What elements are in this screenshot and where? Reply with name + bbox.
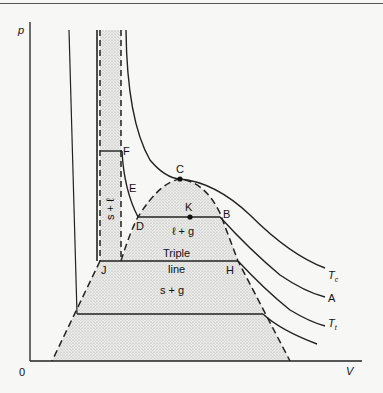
origin-label: 0 <box>19 366 25 378</box>
p-axis-label: p <box>17 24 24 36</box>
label-liquid-gas: ℓ + g <box>172 225 194 237</box>
label-tt: Tt <box>328 317 338 331</box>
label-solid-gas: s + g <box>160 284 184 296</box>
solid-isotherm-line <box>69 30 77 314</box>
v-axis-label: V <box>346 365 355 377</box>
label-j: J <box>101 264 107 276</box>
label-line: line <box>168 263 185 275</box>
phase-diagram: p 0 V C F E D K B J H ℓ + g Triple line … <box>0 0 383 393</box>
label-e: E <box>129 182 136 194</box>
solid-gas-region <box>52 261 290 361</box>
label-solid-liquid: s + ℓ <box>104 198 116 220</box>
label-b: B <box>223 208 230 220</box>
label-k: K <box>185 201 193 213</box>
label-tc: Tc <box>328 269 339 283</box>
label-h: H <box>226 264 234 276</box>
point-k <box>187 214 192 219</box>
label-c: C <box>176 163 184 175</box>
label-triple: Triple <box>163 247 190 259</box>
critical-point-c <box>177 176 182 181</box>
label-a: A <box>328 292 336 304</box>
shaded-regions <box>52 30 290 361</box>
solid-liquid-region <box>100 30 121 261</box>
label-f: F <box>123 145 130 157</box>
label-d: D <box>136 220 144 232</box>
